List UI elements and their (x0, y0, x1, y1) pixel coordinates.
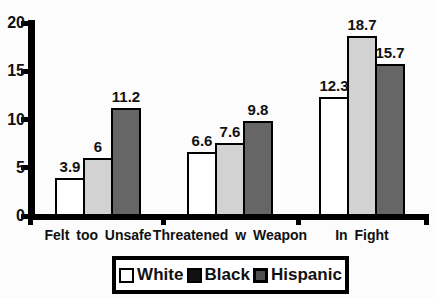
x-axis-line (28, 214, 429, 220)
bar-white (187, 152, 217, 216)
legend-swatch-white (119, 268, 134, 283)
legend-label: White (137, 266, 183, 284)
x-axis-category-label: Threatened w Weapon (153, 227, 307, 243)
bar-value-label: 9.8 (248, 101, 269, 118)
legend-item-white: White (119, 266, 183, 284)
bar-value-label: 15.7 (375, 44, 404, 61)
x-tick-mark (28, 220, 33, 225)
bar-hispanic (243, 121, 273, 216)
bar-value-label: 7.6 (220, 123, 241, 140)
x-axis-category-label: In Fight (335, 227, 389, 243)
legend-swatch-hispanic (253, 268, 268, 283)
legend-label: Black (205, 266, 250, 284)
legend-item-black: Black (187, 266, 250, 284)
y-axis-tick-label: 15 (0, 62, 25, 80)
x-tick-mark (161, 220, 166, 225)
x-tick-mark (296, 220, 301, 225)
bar-hispanic (375, 64, 405, 216)
bar-hispanic (111, 108, 141, 216)
bar-value-label: 6.6 (192, 132, 213, 149)
bar-black (215, 143, 245, 216)
bar-chart-figure: 051015203.9611.2Felt too Unsafe6.67.69.8… (0, 0, 436, 298)
bar-white (319, 97, 349, 216)
y-axis-tick-label: 10 (0, 111, 25, 129)
y-axis-tick-label: 20 (0, 14, 25, 32)
x-tick-mark (424, 220, 429, 225)
bar-white (55, 178, 85, 216)
x-axis-category-label: Felt too Unsafe (44, 227, 151, 243)
bar-value-label: 6 (94, 138, 102, 155)
legend-label: Hispanic (271, 266, 342, 284)
y-axis-line (28, 20, 35, 220)
bar-black (83, 158, 113, 216)
bar-value-label: 3.9 (60, 158, 81, 175)
y-axis-tick-label: 0 (0, 207, 25, 225)
bar-value-label: 12.3 (319, 77, 348, 94)
bar-value-label: 18.7 (347, 16, 376, 33)
y-axis-tick-label: 5 (0, 159, 25, 177)
bar-black (347, 36, 377, 216)
legend-item-hispanic: Hispanic (253, 266, 342, 284)
plot-area: 051015203.9611.2Felt too Unsafe6.67.69.8… (0, 0, 436, 298)
legend-swatch-black (187, 268, 202, 283)
bar-value-label: 11.2 (112, 88, 140, 105)
legend: WhiteBlackHispanic (112, 256, 349, 294)
